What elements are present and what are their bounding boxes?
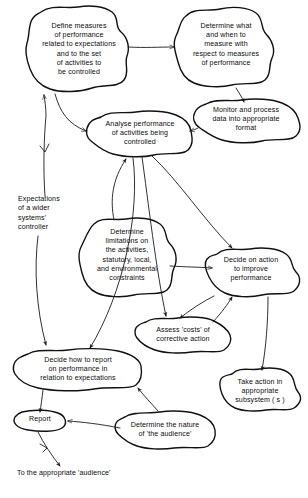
edge-report-to-audience — [38, 432, 60, 466]
edge-expectations-midpoint-arrow — [40, 144, 49, 152]
diagram-canvas: Define measures of performance related t… — [0, 0, 308, 498]
edge-expectations-to-define — [44, 95, 46, 196]
annotation-to-the-appropriate-audience: To the appropriate 'audience' — [17, 469, 197, 478]
node-determine-audience[interactable] — [114, 410, 216, 450]
node-decide-action[interactable] — [203, 246, 302, 298]
node-define-measures[interactable] — [24, 8, 134, 96]
edge-decide-action-to-take-action — [262, 297, 268, 370]
node-decide-how-to-report[interactable] — [12, 348, 142, 392]
node-take-action[interactable] — [218, 366, 303, 414]
edge-branch-to-assess-costs — [180, 296, 214, 318]
node-determine-limitations[interactable] — [77, 216, 177, 298]
edge-expectations-to-decide-how-to-report — [36, 236, 46, 345]
node-analyse-performance[interactable] — [85, 110, 193, 158]
edge-determine-limitations-to-analyse — [112, 159, 126, 220]
node-assess-costs[interactable] — [134, 316, 232, 354]
node-report[interactable] — [12, 409, 68, 433]
node-monitor-process[interactable] — [192, 98, 302, 144]
edge-report-output-kink — [40, 444, 47, 452]
edge-determine-audience-to-report — [68, 421, 120, 428]
edge-define-to-analyse — [55, 94, 86, 131]
node-determine-what-when[interactable] — [170, 8, 280, 88]
